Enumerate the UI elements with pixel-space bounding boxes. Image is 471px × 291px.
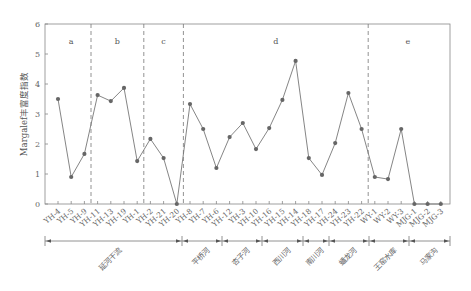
data-point — [96, 93, 100, 97]
data-point — [280, 98, 284, 102]
arrow-right-icon — [403, 239, 408, 243]
data-point — [346, 91, 350, 95]
y-tick-label: 5 — [35, 50, 40, 59]
data-point — [122, 86, 126, 90]
y-tick-label: 3 — [35, 110, 40, 119]
group-label: 延河干流 — [96, 245, 124, 273]
group-label: 杏子河 — [229, 245, 252, 268]
segment-label: b — [115, 37, 120, 46]
segment-label: d — [273, 37, 278, 46]
arrow-right-icon — [444, 239, 449, 243]
y-tick-label: 0 — [35, 200, 40, 209]
group-label: 王窑水库 — [372, 245, 400, 273]
arrow-right-icon — [256, 239, 261, 243]
arrow-left-icon — [304, 239, 309, 243]
arrow-right-icon — [363, 239, 368, 243]
data-point — [373, 175, 377, 179]
data-point — [307, 156, 311, 160]
data-point — [214, 166, 218, 170]
data-point — [148, 137, 152, 141]
group-label: 南川河 — [303, 245, 326, 268]
data-point — [386, 177, 390, 181]
arrow-left-icon — [223, 239, 228, 243]
data-point — [412, 202, 416, 206]
data-point — [267, 126, 271, 130]
y-tick-label: 4 — [35, 80, 40, 89]
data-point — [294, 59, 298, 63]
arrow-left-icon — [263, 239, 268, 243]
data-point — [399, 127, 403, 131]
data-point — [320, 173, 324, 177]
data-point — [254, 147, 258, 151]
y-tick-label: 2 — [35, 140, 40, 149]
arrow-left-icon — [46, 239, 51, 243]
arrow-right-icon — [216, 239, 221, 243]
margalef-line-chart: 0123456Margalef丰富度指数YH-4YH-5YH-9YH-11YH-… — [0, 0, 471, 291]
data-line — [58, 61, 441, 204]
arrow-left-icon — [410, 239, 415, 243]
segment-label: a — [69, 37, 74, 46]
group-label: 西川河 — [271, 245, 293, 267]
arrow-right-icon — [297, 239, 302, 243]
data-point — [162, 156, 166, 160]
data-point — [201, 127, 205, 131]
data-point — [241, 121, 245, 125]
plot-frame — [45, 24, 450, 204]
data-point — [109, 99, 113, 103]
group-label: 马家沟 — [417, 245, 439, 267]
group-label: 平桥河 — [189, 245, 212, 268]
data-point — [360, 127, 364, 131]
data-point — [333, 141, 337, 145]
data-point — [135, 159, 139, 163]
data-point — [69, 175, 73, 179]
arrow-left-icon — [370, 239, 375, 243]
data-point — [439, 202, 443, 206]
segment-label: c — [161, 37, 166, 46]
data-point — [56, 97, 60, 101]
segment-label: e — [405, 37, 410, 46]
arrow-left-icon — [330, 239, 335, 243]
arrow-right-icon — [323, 239, 328, 243]
y-tick-label: 1 — [35, 170, 40, 179]
data-point — [82, 152, 86, 156]
data-point — [426, 202, 430, 206]
y-tick-label: 6 — [35, 20, 40, 29]
arrow-right-icon — [176, 239, 181, 243]
data-point — [175, 202, 179, 206]
arrow-left-icon — [183, 239, 188, 243]
group-label: 蟠龙河 — [336, 245, 359, 268]
data-point — [188, 102, 192, 106]
data-point — [228, 135, 232, 139]
y-axis-label: Margalef丰富度指数 — [19, 72, 29, 156]
